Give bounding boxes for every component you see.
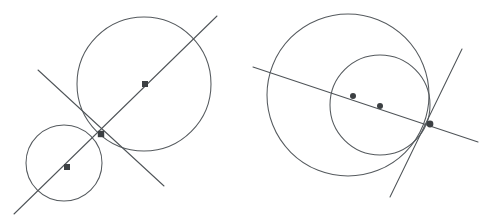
left-small-circle [26,125,102,201]
right-line-of-centers [253,67,478,142]
right-outer-circle-center-dot [350,93,356,99]
left-common-tangent-line [38,70,164,186]
left-large-circle-center-dot [142,81,148,87]
left-tangency-point-dot [98,131,104,137]
diagram-canvas [0,0,490,222]
right-panel-group [253,14,478,197]
right-outer-circle [267,14,429,176]
left-line-of-centers [14,16,217,214]
right-common-tangent-line [390,49,462,197]
left-small-circle-center-dot [64,164,70,170]
right-tangency-point-dot [427,121,434,128]
left-panel-group [14,16,217,214]
tangent-circles-figure [0,0,490,222]
right-inner-circle-center-dot [377,103,383,109]
